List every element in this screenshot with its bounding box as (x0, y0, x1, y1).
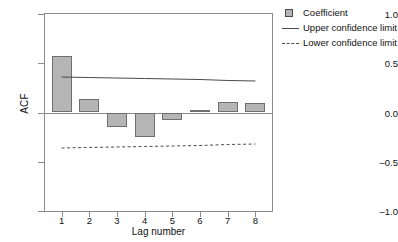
x-tick-label: 7 (218, 215, 238, 226)
chart-legend: CoefficientUpper confidence limitLower c… (281, 6, 398, 51)
legend-swatch-icon (281, 7, 303, 19)
y-axis-title: ACF (19, 74, 30, 134)
x-tick-label: 3 (107, 215, 127, 226)
x-tick-label: 6 (190, 215, 210, 226)
legend-solid-line-icon (281, 22, 303, 34)
legend-item-1: Coefficient (281, 6, 398, 20)
x-tick-label: 5 (162, 215, 182, 226)
legend-label: Lower confidence limit (303, 37, 397, 49)
x-tick-label: 2 (79, 215, 99, 226)
y-tick-label: 0.5 (364, 58, 398, 69)
legend-item-3: Lower confidence limit (281, 36, 398, 50)
x-tick-label: 8 (245, 215, 265, 226)
lower-confidence-limit-line (62, 144, 256, 148)
legend-item-2: Upper confidence limit (281, 21, 398, 35)
legend-label: Coefficient (303, 7, 348, 19)
x-axis-title: Lag number (44, 226, 273, 237)
x-tick-label: 1 (52, 215, 72, 226)
confidence-limit-lines (45, 14, 272, 211)
y-tick-label: –0.5 (364, 156, 398, 167)
data-area (45, 14, 272, 211)
y-tick-label: 0.0 (364, 107, 398, 118)
legend-dashed-line-icon (281, 37, 303, 49)
acf-chart-figure: ACF 1.00.50.0–0.5–1.0 12345678 Lag numbe… (0, 0, 398, 242)
y-tick-label: –1.0 (364, 206, 398, 217)
x-tick-label: 4 (135, 215, 155, 226)
upper-confidence-limit-line (62, 77, 256, 81)
plot-area (44, 13, 273, 212)
legend-label: Upper confidence limit (303, 22, 397, 34)
